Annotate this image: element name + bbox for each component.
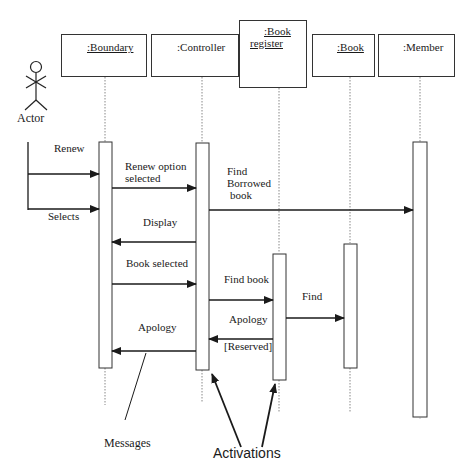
msg-book-selected-label: Book selected: [126, 257, 188, 270]
object-boundary: :Boundary: [61, 34, 147, 77]
msg-renew-label: Renew: [54, 142, 85, 155]
actor-stick-figure-icon: [25, 62, 47, 111]
activation-member: [413, 142, 427, 417]
msg-find-borrowed-label-3: book: [230, 189, 252, 202]
msg-apology-label: Apology: [138, 321, 177, 334]
object-boundary-label: :Boundary: [87, 41, 133, 54]
object-controller: :Controller: [151, 34, 239, 77]
msg-find-book-label: Find book: [224, 273, 269, 286]
activations-callout-label: Activations: [213, 445, 281, 461]
object-member-label: :Member: [403, 41, 443, 54]
msg-apology-reserved-label: Apology: [229, 313, 268, 326]
messages-callout-label: Messages: [104, 436, 151, 451]
msg-find-label: Find: [302, 290, 322, 303]
activation-book: [344, 244, 357, 368]
msg-renew-option-label-2: selected: [125, 172, 160, 185]
activation-controller: [196, 143, 209, 370]
object-book: :Book: [312, 34, 375, 77]
msg-selects-label: Selects: [48, 210, 79, 223]
activations-callout-line-2: [262, 384, 275, 447]
object-book-register: :Book register: [239, 20, 307, 88]
msg-reserved-guard: [Reserved]: [224, 340, 272, 353]
messages-callout-line: [125, 353, 146, 420]
activation-boundary: [99, 142, 112, 368]
object-book-label: :Book: [337, 41, 364, 54]
activation-book-register: [273, 254, 286, 380]
object-controller-label: :Controller: [177, 41, 225, 54]
activations-callout-line-1: [212, 374, 241, 447]
object-book-register-label-line2: register: [250, 37, 283, 50]
actor-label: Actor: [17, 112, 44, 125]
object-member: :Member: [378, 34, 455, 77]
msg-display-label: Display: [143, 216, 177, 229]
